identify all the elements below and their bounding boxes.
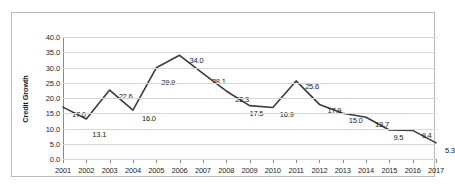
gridline bbox=[63, 83, 436, 84]
gridline bbox=[63, 159, 436, 160]
data-point-label: 9.4 bbox=[422, 131, 432, 140]
x-axis-tick-label: 2002 bbox=[78, 166, 94, 175]
data-point-label: 9.5 bbox=[393, 133, 403, 142]
data-point-label: 22.3 bbox=[235, 95, 249, 104]
gridline bbox=[63, 68, 436, 69]
x-axis-tick-label: 2003 bbox=[102, 166, 118, 175]
x-axis-tick-label: 2005 bbox=[148, 166, 164, 175]
x-axis-tick-label: 2006 bbox=[172, 166, 188, 175]
data-point-label: 34.0 bbox=[190, 56, 204, 65]
data-point-label: 15.0 bbox=[349, 116, 363, 125]
x-axis-tick-label: 2010 bbox=[265, 166, 281, 175]
x-axis-tick-label: 2012 bbox=[311, 166, 327, 175]
x-axis-tick-label: 2013 bbox=[335, 166, 351, 175]
chart-container: 0.05.010.015.020.025.030.035.040.0 Credi… bbox=[11, 12, 435, 177]
x-axis-tick-mark bbox=[436, 159, 437, 163]
x-axis-tick-label: 2001 bbox=[55, 166, 71, 175]
gridline bbox=[63, 37, 436, 38]
data-point-label: 22.6 bbox=[119, 92, 133, 101]
data-point-label: 17.0 bbox=[72, 110, 86, 119]
x-axis-tick-label: 2014 bbox=[358, 166, 374, 175]
x-axis-tick-label: 2015 bbox=[381, 166, 397, 175]
x-axis-tick-label: 2009 bbox=[242, 166, 258, 175]
y-axis-title-holder: Credit Growth bbox=[26, 37, 46, 160]
x-axis-tick-label: 2017 bbox=[428, 166, 444, 175]
gridline bbox=[63, 98, 436, 99]
gridline bbox=[63, 144, 436, 145]
data-point-label: 16.0 bbox=[142, 114, 156, 123]
data-point-label: 5.3 bbox=[445, 146, 455, 155]
y-axis-title: Credit Growth bbox=[21, 75, 30, 122]
x-axis-tick-label: 2004 bbox=[125, 166, 141, 175]
x-axis-tick-label: 2016 bbox=[405, 166, 421, 175]
x-axis-tick-label: 2008 bbox=[218, 166, 234, 175]
data-point-label: 13.1 bbox=[92, 130, 106, 139]
gridline bbox=[63, 113, 436, 114]
gridline bbox=[63, 52, 436, 53]
gridline bbox=[63, 129, 436, 130]
data-point-label: 16.9 bbox=[280, 110, 294, 119]
x-axis-tick-label: 2007 bbox=[195, 166, 211, 175]
x-axis-tick-label: 2011 bbox=[288, 166, 303, 175]
